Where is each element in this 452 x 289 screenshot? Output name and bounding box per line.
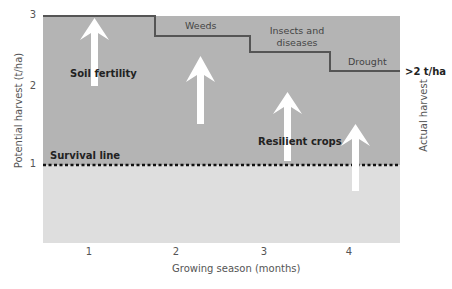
insects-label-line2: diseases xyxy=(262,37,332,49)
soil-fertility-label: Soil fertility xyxy=(70,68,137,79)
insects-label-line1: Insects and xyxy=(262,25,332,37)
up-arrow-icon xyxy=(341,124,370,191)
x-tick-3: 3 xyxy=(254,246,274,257)
insects-label: Insects and diseases xyxy=(262,25,332,49)
chart-graphics xyxy=(0,0,452,289)
drought-label: Drought xyxy=(348,56,387,68)
y-tick-3: 3 xyxy=(22,9,36,20)
x-tick-2: 2 xyxy=(166,246,186,257)
weeds-label: Weeds xyxy=(185,20,217,32)
resilient-crops-label: Resilient crops xyxy=(258,136,342,147)
y-tick-1: 1 xyxy=(22,158,36,169)
x-tick-4: 4 xyxy=(339,246,359,257)
x-axis-label: Growing season (months) xyxy=(172,263,300,274)
y-tick-2: 2 xyxy=(22,80,36,91)
up-arrow-icon xyxy=(186,56,215,124)
right-axis-label: Actual harvest xyxy=(418,76,429,156)
x-tick-1: 1 xyxy=(79,246,99,257)
up-arrow-icon xyxy=(273,92,302,161)
y-axis-label: Potential harvest (t/ha) xyxy=(13,51,24,171)
survival-line-label: Survival line xyxy=(50,150,120,161)
end-value-label: >2 t/ha xyxy=(405,66,446,77)
